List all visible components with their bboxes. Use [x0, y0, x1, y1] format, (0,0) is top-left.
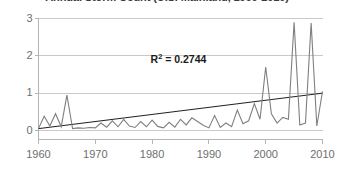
x-tick-label-1960: 1960	[16, 149, 62, 160]
x-tick-label-2000: 2000	[243, 149, 289, 160]
y-tick-label-0: 0	[7, 125, 33, 136]
r-squared-annotation: R2 = 0.2744	[151, 53, 207, 65]
x-tick-label-2010: 2010	[300, 149, 339, 160]
x-tick-label-1990: 1990	[186, 149, 232, 160]
y-tick-label-3: 3	[7, 13, 33, 24]
data-series-line	[39, 22, 323, 128]
y-tick-label-1: 1	[7, 87, 33, 98]
y-tick-label-2: 2	[7, 50, 33, 61]
x-tick-label-1970: 1970	[72, 149, 118, 160]
r-squared-prefix: R	[151, 53, 159, 65]
tick-marks	[35, 19, 323, 144]
axes	[39, 19, 323, 140]
gridlines	[39, 19, 323, 131]
r-squared-value: = 0.2744	[162, 53, 206, 65]
x-tick-label-1980: 1980	[129, 149, 175, 160]
trendline-series	[39, 93, 323, 128]
